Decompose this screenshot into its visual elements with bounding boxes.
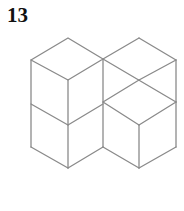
isometric-cubes-figure: [0, 0, 184, 211]
left-cube-top-face: [31, 38, 103, 80]
